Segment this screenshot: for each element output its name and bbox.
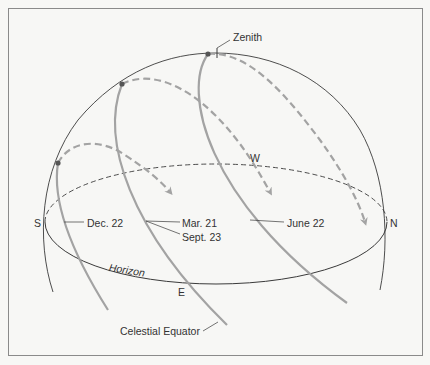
celestial-sphere-diagram (0, 0, 430, 365)
sun-path-dec22-front (57, 163, 108, 310)
dec22-label: Dec. 22 (87, 218, 123, 229)
zenith-leader (217, 40, 230, 48)
zenith-label: Zenith (233, 32, 262, 43)
mar21-label: Mar. 21 (182, 218, 217, 229)
north-label: N (390, 218, 398, 229)
east-label: E (178, 287, 185, 298)
horizon-back-dashed (45, 164, 387, 222)
celestial-equator-leader (203, 322, 218, 331)
sun-path-june22-back (208, 54, 365, 222)
sun-path-june22-front (199, 54, 347, 303)
sept23-label: Sept. 23 (182, 232, 221, 243)
sun-path-equinox-front (115, 84, 227, 325)
sun-path-equinox-back (122, 79, 270, 192)
figure-frame (9, 9, 423, 356)
noon-dot-june22 (205, 51, 210, 56)
sky-dome-outline (43, 53, 385, 292)
noon-dot-dec22 (55, 160, 60, 165)
june22-leader (250, 220, 284, 222)
celestial-equator-label: Celestial Equator (120, 326, 200, 337)
west-label: W (250, 153, 260, 164)
sun-path-dec22-back (58, 144, 170, 192)
south-label: S (34, 218, 41, 229)
mar21-leader (146, 221, 180, 222)
noon-dot-equinox (119, 81, 124, 86)
june22-label: June 22 (287, 218, 324, 229)
